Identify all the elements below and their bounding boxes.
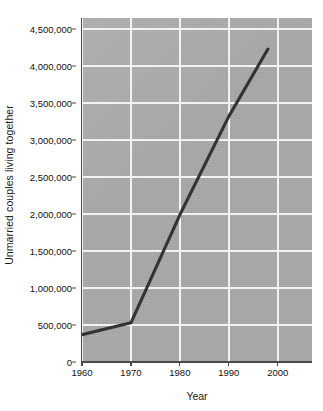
y-axis-tick-label: 3,000,000 xyxy=(30,135,72,146)
y-axis-title: Unmarried couples living together xyxy=(0,0,18,370)
x-axis-tick-mark xyxy=(277,362,278,366)
y-axis-tick-label: 500,000 xyxy=(38,320,72,331)
y-axis-tick-mark xyxy=(72,140,76,141)
y-axis-tick-mark xyxy=(72,214,76,215)
plot-area xyxy=(82,18,312,362)
y-axis-line xyxy=(81,18,82,362)
y-axis-tick-labels: 0500,0001,000,0001,500,0002,000,0002,500… xyxy=(18,0,76,411)
y-axis-tick-mark xyxy=(72,325,76,326)
x-axis-tick-label: 2000 xyxy=(267,367,288,378)
x-axis-tick-mark xyxy=(81,362,82,366)
y-axis-tick-mark xyxy=(72,66,76,67)
y-axis-tick-label: 2,000,000 xyxy=(30,209,72,220)
y-axis-tick-mark xyxy=(72,288,76,289)
y-axis-tick-label: 4,500,000 xyxy=(30,24,72,35)
series-polyline xyxy=(82,49,268,335)
y-axis-tick-label: 3,500,000 xyxy=(30,98,72,109)
y-axis-tick-label: 2,500,000 xyxy=(30,172,72,183)
y-axis-tick-mark xyxy=(72,177,76,178)
line-chart: Unmarried couples living together 0500,0… xyxy=(0,0,323,411)
x-axis-tick-mark xyxy=(179,362,180,366)
y-axis-tick-label: 1,000,000 xyxy=(30,283,72,294)
y-axis-title-text: Unmarried couples living together xyxy=(3,105,15,265)
y-axis-tick-label: 1,500,000 xyxy=(30,246,72,257)
x-axis-tick-label: 1970 xyxy=(120,367,141,378)
x-axis-tick-label: 1990 xyxy=(218,367,239,378)
x-axis-title: Year xyxy=(82,390,312,402)
x-axis-tick-mark xyxy=(130,362,131,366)
y-axis-tick-label: 4,000,000 xyxy=(30,61,72,72)
x-axis-tick-label: 1960 xyxy=(71,367,92,378)
data-line xyxy=(82,18,312,362)
y-axis-tick-mark xyxy=(72,29,76,30)
y-axis-tick-mark xyxy=(72,103,76,104)
x-axis-tick-mark xyxy=(228,362,229,366)
x-axis-tick-labels: 19601970198019902000 xyxy=(0,362,323,386)
y-axis-tick-mark xyxy=(72,251,76,252)
x-axis-tick-label: 1980 xyxy=(169,367,190,378)
